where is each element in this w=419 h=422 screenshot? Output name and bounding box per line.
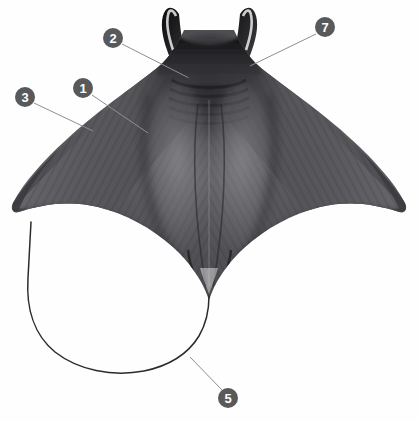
callout-marker-5[interactable]: 5: [218, 388, 238, 408]
callout-label-7: 7: [321, 20, 328, 35]
leader-dot-2: [188, 77, 192, 81]
callout-marker-2[interactable]: 2: [103, 28, 123, 48]
callout-label-5: 5: [224, 391, 231, 406]
callout-marker-7[interactable]: 7: [315, 17, 335, 37]
manta-ray-radiograph: 1 2 3 5 7: [0, 0, 419, 422]
callout-label-2: 2: [109, 31, 116, 46]
manta-ray-figure: 1 2 3 5 7: [0, 0, 419, 422]
callout-marker-3[interactable]: 3: [15, 87, 35, 107]
callout-label-1: 1: [79, 81, 86, 96]
callout-label-3: 3: [21, 90, 28, 105]
callout-marker-1[interactable]: 1: [73, 78, 93, 98]
